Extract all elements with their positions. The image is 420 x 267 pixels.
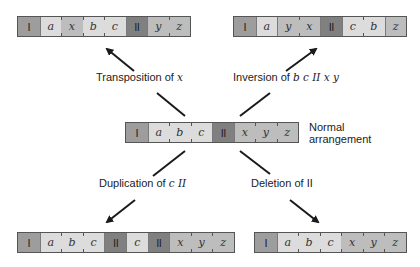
segment-a: a	[40, 233, 62, 252]
segment-centromere-II: II	[126, 17, 148, 36]
segment-x: x	[61, 17, 83, 36]
duplication-label: Duplication of c II	[99, 177, 186, 189]
segment-x: x	[169, 233, 191, 252]
segment-centromere-II-duplicate: II	[148, 233, 170, 252]
segment-centromere-I: I	[126, 123, 148, 142]
chromosome-duplication: I a b c II c II x y z	[17, 232, 235, 253]
chromosome-transposition: I a x b c II y z	[17, 16, 191, 37]
segment-b: b	[169, 123, 191, 142]
segment-a: a	[40, 17, 62, 36]
segment-y: y	[255, 123, 277, 142]
segment-y: y	[147, 17, 169, 36]
segment-c: c	[191, 123, 213, 142]
segment-y: y	[191, 233, 213, 252]
chromosome-normal: I a b c II x y z	[125, 122, 299, 143]
deletion-arrow	[290, 200, 318, 222]
segment-x: x	[234, 123, 256, 142]
duplication-arrow	[107, 200, 135, 222]
segment-z: z	[384, 233, 406, 252]
segment-z: z	[385, 17, 407, 36]
segment-centromere-I: I	[18, 17, 40, 36]
segment-a: a	[277, 233, 299, 252]
chromosome-inversion: I a y x II c b z	[233, 16, 407, 37]
segment-z: z	[212, 233, 234, 252]
transposition-label: Transposition of x	[96, 71, 183, 83]
segment-x: x	[299, 17, 321, 36]
deletion-stem	[240, 151, 270, 174]
inversion-arrow	[286, 49, 316, 71]
normal-label-line1: Normal	[309, 121, 371, 133]
segment-y: y	[363, 233, 385, 252]
chromosome-deletion: I a b c x y z	[254, 232, 407, 253]
inversion-label-target: b c II x y	[293, 71, 339, 83]
segment-c: c	[342, 17, 364, 36]
segment-b: b	[61, 233, 83, 252]
segment-c: c	[83, 233, 105, 252]
transposition-stem	[157, 93, 185, 116]
duplication-label-target: c II	[169, 177, 187, 189]
normal-label-line2: arrangement	[309, 133, 371, 145]
segment-centromere-I: I	[255, 233, 277, 252]
segment-y: y	[277, 17, 299, 36]
segment-c: c	[320, 233, 342, 252]
duplication-stem	[153, 151, 185, 176]
segment-z: z	[277, 123, 299, 142]
segment-a: a	[256, 17, 278, 36]
normal-label: Normal arrangement	[309, 121, 371, 145]
segment-x: x	[341, 233, 363, 252]
duplication-label-prefix: Duplication of	[99, 177, 169, 189]
transposition-label-target: x	[177, 71, 183, 83]
segment-a: a	[148, 123, 170, 142]
segment-centromere-II: II	[212, 123, 234, 142]
deletion-label-text: Deletion of II	[251, 177, 313, 189]
segment-c: c	[104, 17, 126, 36]
segment-b: b	[363, 17, 385, 36]
segment-centromere-II: II	[320, 17, 342, 36]
transposition-label-prefix: Transposition of	[96, 71, 177, 83]
segment-centromere-II: II	[104, 233, 126, 252]
segment-centromere-I: I	[18, 233, 40, 252]
deletion-label: Deletion of II	[251, 177, 313, 189]
segment-centromere-I: I	[234, 17, 256, 36]
inversion-stem	[240, 93, 270, 116]
segment-z: z	[169, 17, 191, 36]
segment-b: b	[83, 17, 105, 36]
segment-b: b	[298, 233, 320, 252]
inversion-label-prefix: Inversion of	[233, 71, 293, 83]
segment-c-duplicate: c	[126, 233, 148, 252]
inversion-label: Inversion of b c II x y	[233, 71, 339, 83]
transposition-arrow	[107, 49, 134, 71]
